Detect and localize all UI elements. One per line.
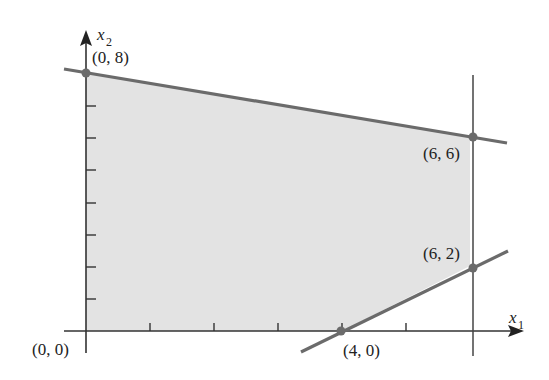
vertex-label-6-6: (6, 6) [423, 144, 460, 163]
x2-axis-subscript: 2 [106, 35, 112, 49]
feasible-region [86, 73, 470, 331]
vertex-label-4-0: (4, 0) [343, 341, 380, 360]
vertex-label-0-0: (0, 0) [32, 340, 69, 359]
feasible-region-diagram: (0, 8) (6, 6) (6, 2) (4, 0) (0, 0) x 2 x… [0, 0, 549, 380]
x2-axis-label: x [96, 25, 105, 44]
vertex-label-6-2: (6, 2) [423, 244, 460, 263]
x1-axis-label: x [508, 308, 517, 327]
x1-axis-subscript: 1 [518, 318, 524, 332]
vertex-label-0-8: (0, 8) [92, 48, 129, 67]
